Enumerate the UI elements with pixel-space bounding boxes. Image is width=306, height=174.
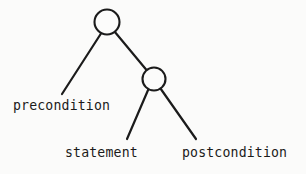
- leaf-label-statement: statement: [65, 146, 138, 160]
- edge-root-to-inner-node: [115, 32, 147, 71]
- edge-inner-to-postcondition: [161, 89, 197, 140]
- leaf-label-precondition: precondition: [13, 99, 110, 113]
- parse-tree-diagram: precondition statement postcondition: [0, 0, 306, 174]
- inner-node-circle: [143, 68, 166, 91]
- leaf-label-postcondition: postcondition: [182, 146, 287, 160]
- root-node-circle: [95, 10, 120, 35]
- edge-inner-to-statement: [127, 89, 149, 139]
- edge-root-to-precondition: [62, 34, 101, 95]
